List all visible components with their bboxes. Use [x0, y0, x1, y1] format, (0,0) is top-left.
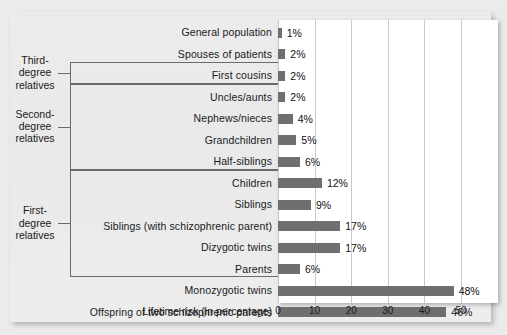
bar-value-label: 17% — [345, 243, 366, 253]
bar — [278, 157, 300, 167]
chart-row: Nephews/nieces4% — [10, 108, 491, 130]
chart-panel: Third-degreerelativesSecond-degreerelati… — [10, 12, 491, 322]
chart-row: Parents6% — [10, 259, 491, 281]
category-label: Half-siblings — [12, 151, 272, 173]
bar-group: 17% — [278, 216, 366, 238]
chart-row: Siblings (with schizophrenic parent)17% — [10, 216, 491, 238]
bar-group: 48% — [278, 280, 480, 302]
bar-value-label: 2% — [290, 49, 305, 59]
chart-row: Spouses of patients2% — [10, 44, 491, 66]
bar — [278, 264, 300, 274]
chart-row: General population1% — [10, 22, 491, 44]
chart-row: First cousins2% — [10, 65, 491, 87]
bar — [278, 49, 285, 59]
bar-value-label: 6% — [305, 264, 320, 274]
x-tick-label: 30 — [382, 305, 393, 316]
category-label: Spouses of patients — [12, 44, 272, 66]
chart-row: Monozygotic twins48% — [10, 280, 491, 302]
bar — [278, 200, 311, 210]
category-label: General population — [12, 22, 272, 44]
bar-value-label: 12% — [327, 178, 348, 188]
chart-rows: General population1%Spouses of patients2… — [10, 12, 491, 322]
category-label: Dizygotic twins — [12, 237, 272, 259]
chart-row: Half-siblings6% — [10, 151, 491, 173]
bar-value-label: 1% — [287, 28, 302, 38]
bar-group: 6% — [278, 151, 320, 173]
bar-group: 9% — [278, 194, 331, 216]
chart-row: Dizygotic twins17% — [10, 237, 491, 259]
bar — [278, 135, 296, 145]
x-tick-label: 50 — [455, 305, 466, 316]
category-label: First cousins — [12, 65, 272, 87]
x-tick-label: 0 — [275, 305, 281, 316]
bar — [278, 243, 340, 253]
bar-value-label: 48% — [459, 286, 480, 296]
bar-value-label: 5% — [301, 135, 316, 145]
x-tick-label: 40 — [419, 305, 430, 316]
bar-group: 17% — [278, 237, 366, 259]
bar-group: 12% — [278, 173, 348, 195]
category-label: Siblings — [12, 194, 272, 216]
category-label: Uncles/aunts — [12, 87, 272, 109]
bar — [278, 28, 282, 38]
bar — [278, 221, 340, 231]
bar-value-label: 9% — [316, 200, 331, 210]
x-tick-label: 10 — [309, 305, 320, 316]
category-label: Grandchildren — [12, 130, 272, 152]
x-axis: 01020304050 — [278, 303, 498, 321]
bar — [278, 178, 322, 188]
bar-group: 2% — [278, 44, 306, 66]
category-label: Siblings (with schizophrenic parent) — [12, 216, 272, 238]
bar-value-label: 6% — [305, 157, 320, 167]
category-label: Nephews/nieces — [12, 108, 272, 130]
chart-row: Siblings9% — [10, 194, 491, 216]
chart-row: Grandchildren5% — [10, 130, 491, 152]
bar — [278, 71, 285, 81]
category-label: Parents — [12, 259, 272, 281]
bar — [278, 286, 454, 296]
bar-value-label: 4% — [298, 114, 313, 124]
chart-row: Children12% — [10, 173, 491, 195]
chart-row: Uncles/aunts2% — [10, 87, 491, 109]
axis-title: Lifetime risk (in percentage) — [12, 303, 272, 319]
category-label: Children — [12, 173, 272, 195]
bar — [278, 114, 293, 124]
bar-value-label: 2% — [290, 71, 305, 81]
bar-group: 1% — [278, 22, 302, 44]
bar — [278, 92, 285, 102]
bar-group: 5% — [278, 130, 316, 152]
category-label: Monozygotic twins — [12, 280, 272, 302]
bar-group: 4% — [278, 108, 313, 130]
bar-group: 2% — [278, 65, 306, 87]
x-tick-label: 20 — [346, 305, 357, 316]
bar-group: 6% — [278, 259, 320, 281]
bar-value-label: 2% — [290, 92, 305, 102]
bar-group: 2% — [278, 87, 306, 109]
bar-value-label: 17% — [345, 221, 366, 231]
